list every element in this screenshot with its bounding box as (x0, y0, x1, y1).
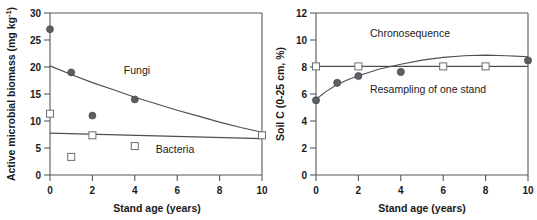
data-point-fungi-2 (89, 112, 96, 119)
left-ytick-5: 5 (35, 143, 41, 154)
data-point-chronosequence-4 (524, 57, 531, 64)
left-x-axis-title: Stand age (years) (113, 202, 201, 214)
data-point-bacteria-2 (89, 132, 96, 139)
right-x-axis-title: Stand age (years) (378, 202, 466, 214)
data-point-resampling-1 (355, 63, 362, 70)
data-point-chronosequence-0 (312, 97, 319, 104)
right-xtick-0: 0 (313, 185, 319, 196)
left-ytick-25: 25 (30, 35, 42, 46)
data-point-resampling-2 (440, 63, 447, 70)
left-y-axis-title-tail: ) (5, 7, 17, 11)
left-fungi-fit-curve (50, 66, 262, 132)
left-ytick-0: 0 (35, 170, 41, 181)
data-point-bacteria-3 (131, 143, 138, 150)
left-xtick-8: 8 (217, 185, 223, 196)
right-ytick-8: 8 (301, 62, 307, 73)
right-xtick-8: 8 (483, 185, 489, 196)
right-xtick-10: 10 (522, 185, 534, 196)
left-xtick-2: 2 (90, 185, 96, 196)
left-x-axis-ticks: 0 2 4 6 8 10 (47, 175, 268, 196)
left-ytick-15: 15 (30, 89, 42, 100)
data-point-bacteria-1 (68, 153, 75, 160)
left-xtick-10: 10 (256, 185, 268, 196)
figure-container: 30 25 20 15 10 5 0 0 2 4 6 8 (0, 0, 537, 220)
left-ytick-30: 30 (30, 8, 42, 19)
right-ytick-10: 10 (296, 35, 308, 46)
right-ytick-0: 0 (301, 170, 307, 181)
left-y-axis-title: Active microbial biomass (mg kg-1) (4, 7, 17, 181)
data-point-bacteria-0 (47, 110, 54, 117)
left-annotation-fungi: Fungi (124, 64, 150, 76)
right-ytick-6: 6 (301, 89, 307, 100)
right-xtick-4: 4 (398, 185, 404, 196)
left-xtick-6: 6 (174, 185, 180, 196)
chart-panel-right: 12 10 8 6 4 2 0 0 2 4 6 8 1 (270, 0, 537, 220)
data-point-resampling-3 (482, 63, 489, 70)
left-y-axis-title-superscript: -1 (4, 10, 13, 17)
left-xtick-4: 4 (132, 185, 138, 196)
left-panel-svg: 30 25 20 15 10 5 0 0 2 4 6 8 (0, 0, 270, 220)
left-y-axis-title-main: Active microbial biomass (mg kg (5, 17, 17, 181)
data-point-resampling-0 (313, 63, 320, 70)
right-ytick-2: 2 (301, 143, 307, 154)
left-y-axis-ticks: 30 25 20 15 10 5 0 (30, 8, 50, 181)
data-point-chronosequence-2 (355, 72, 362, 79)
data-point-fungi-0 (47, 26, 54, 33)
left-xtick-0: 0 (47, 185, 53, 196)
right-ytick-4: 4 (301, 116, 307, 127)
right-xtick-2: 2 (356, 185, 362, 196)
right-xtick-6: 6 (440, 185, 446, 196)
data-point-bacteria-4 (259, 132, 266, 139)
right-ytick-12: 12 (296, 8, 308, 19)
right-panel-svg: 12 10 8 6 4 2 0 0 2 4 6 8 1 (270, 0, 537, 220)
data-point-chronosequence-3 (397, 68, 404, 75)
left-ytick-10: 10 (30, 116, 42, 127)
chart-panel-left: 30 25 20 15 10 5 0 0 2 4 6 8 (0, 0, 270, 220)
right-y-axis-title: Soil C (0-25 cm, %) (274, 47, 286, 141)
left-bacteria-fit-line (50, 133, 262, 139)
left-ytick-20: 20 (30, 62, 42, 73)
left-annotation-bacteria: Bacteria (156, 143, 195, 155)
right-x-axis-ticks: 0 2 4 6 8 10 (313, 175, 534, 196)
data-point-chronosequence-1 (334, 79, 341, 86)
right-annotation-chronosequence: Chronosequence (370, 27, 450, 39)
data-point-fungi-1 (68, 69, 75, 76)
right-annotation-resampling: Resampling of one stand (370, 83, 486, 95)
right-y-axis-ticks: 12 10 8 6 4 2 0 (296, 8, 316, 181)
data-point-fungi-3 (131, 96, 138, 103)
